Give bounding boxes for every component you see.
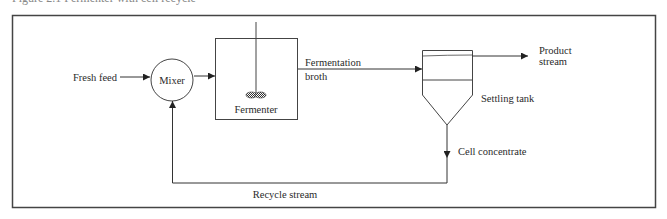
settling-tank-node — [423, 51, 473, 126]
broth-label-line2: broth — [305, 71, 328, 82]
fermenter-label: Fermenter — [234, 104, 278, 115]
process-flow-diagram: Fresh feed Mixer Fermenter Fermentation … — [0, 0, 667, 219]
impeller-icon — [246, 92, 266, 98]
broth-label-line1: Fermentation — [305, 57, 362, 68]
cell-concentrate-label: Cell concentrate — [458, 146, 527, 157]
product-stream-label-line2: stream — [539, 56, 567, 67]
fresh-feed-label: Fresh feed — [73, 72, 118, 83]
mixer-label: Mixer — [159, 75, 185, 86]
recycle-stream-line — [173, 101, 448, 183]
settling-tank-label: Settling tank — [481, 93, 535, 104]
product-stream-label-line1: Product — [539, 45, 572, 56]
recycle-stream-label: Recycle stream — [253, 189, 317, 200]
